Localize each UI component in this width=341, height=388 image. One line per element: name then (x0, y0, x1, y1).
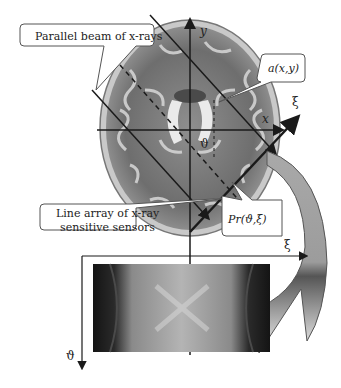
sinogram-theta-label: ϑ (66, 349, 75, 363)
svg-text:a(x,y): a(x,y) (268, 62, 299, 75)
sinogram-image (93, 264, 270, 352)
svg-text:Line array of x-ray: Line array of x-ray (56, 207, 160, 220)
x-axis-label: x (262, 112, 269, 126)
svg-text:sensitive sensors: sensitive sensors (60, 221, 155, 234)
xi-rotated-label: ξ (292, 95, 299, 109)
angle-label: ϑ (200, 137, 209, 151)
svg-text:Pr(ϑ,ξ): Pr(ϑ,ξ) (227, 213, 267, 226)
y-axis-label: y (199, 24, 207, 38)
sinogram-xi-label: ξ (284, 238, 291, 252)
svg-text:Parallel beam of x-rays: Parallel beam of x-rays (35, 30, 163, 43)
ct-diagram: y x ϑ ξ Parallel beam of x-rays a(x,y) L… (0, 0, 341, 388)
